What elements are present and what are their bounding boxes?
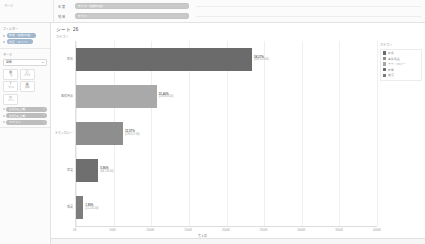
y-axis-tick: 家具 — [54, 41, 75, 78]
legend-swatch — [383, 68, 386, 71]
bar-row: 5.96%(66,726.00) — [76, 152, 377, 189]
mark-size-button[interactable]: ◰ サイズ — [20, 69, 35, 80]
legend-label: 家電 — [388, 68, 394, 72]
x-axis-tick-label: 500K — [110, 229, 116, 232]
marks-encoding-buttons: ▦ 色 ◰ サイズ T ラベル ▣ 詳細 — [3, 69, 47, 105]
x-axis-tick-label: 1500K — [184, 229, 192, 232]
x-axis: 0K500K1000K1500K2000K2500K3000K3500K4000… — [51, 226, 377, 238]
mark-color-label: 色 — [10, 75, 12, 77]
filter-chip-label[interactable]: 年度（複数の値） — [7, 33, 36, 38]
page-title: シート 26 — [56, 26, 425, 32]
filter-divider — [196, 5, 421, 7]
legend-item[interactable]: 事務用品 — [383, 57, 420, 61]
mark-type-select[interactable]: 自動 — [3, 59, 47, 67]
remove-icon[interactable]: × — [43, 121, 45, 124]
status-bar — [51, 238, 425, 244]
legend-title: カテゴリ — [380, 43, 422, 47]
y-axis-tick-label: 家電 — [67, 168, 73, 172]
x-axis-tick-label: 2000K — [222, 229, 230, 232]
y-axis-tick-label: 雑貨 — [67, 205, 73, 209]
pages-shelf-label: ページ — [4, 3, 50, 8]
mark-label-button[interactable]: T ラベル — [3, 81, 18, 92]
bar-label: 58.37%(640,913.00) — [254, 56, 269, 62]
remove-icon[interactable]: × — [43, 108, 45, 111]
bar[interactable]: 5.96%(66,726.00) — [76, 159, 98, 182]
legend-label: 雑貨 — [388, 73, 394, 77]
x-axis-tick-label: 0K — [73, 229, 76, 232]
mark-pill-label: カテゴリ — [9, 120, 21, 124]
plot-main: 家具事務用品テクノロジー家電雑貨 58.37%(640,913.00)21.46… — [51, 41, 377, 227]
bar-value-label: (21,241.00) — [85, 208, 98, 211]
legend-items: 家具事務用品テクノロジー家電雑貨 — [380, 49, 422, 82]
bar-value-label: (238,903.00) — [159, 96, 174, 99]
legend-item[interactable]: テクノロジー — [383, 62, 420, 66]
bar-value-label: (139,517.00) — [125, 133, 140, 136]
filter-card-item[interactable]: 年度（複数の値） — [3, 33, 47, 40]
legend-label: テクノロジー — [388, 62, 406, 66]
filter-name: 地 域 — [58, 14, 72, 19]
y-axis-labels: 家具事務用品テクノロジー家電雑貨 — [51, 41, 75, 227]
filter-card-item[interactable]: 地区（すべて） — [3, 39, 47, 46]
bar-value-label: (66,726.00) — [100, 170, 113, 173]
legend-item[interactable]: 家電 — [383, 68, 420, 72]
mark-pill-row[interactable]: カテゴリ× — [3, 120, 47, 125]
marks-panel-title: マーク — [3, 52, 47, 57]
remove-icon[interactable]: × — [43, 114, 45, 117]
bar[interactable]: 21.46%(238,903.00) — [76, 85, 157, 108]
y-axis-tick-label: 事務用品 — [61, 94, 73, 98]
legend-item[interactable]: 雑貨 — [383, 73, 420, 77]
bar[interactable]: 1.90%(21,241.00) — [76, 196, 83, 219]
legend-swatch — [383, 74, 386, 77]
x-axis-ticks: 0K500K1000K1500K2000K2500K3000K3500K4000… — [75, 226, 377, 234]
mark-pill[interactable]: 合計(売上高)× — [6, 113, 47, 118]
sidebar-spacer — [0, 128, 50, 244]
sidebar: フィルター 年度（複数の値） 地区（すべて） マーク 自動 — [0, 23, 51, 244]
y-axis-tick: テクノロジー — [54, 115, 75, 152]
mark-label-label: ラベル — [8, 87, 14, 89]
mark-pill-row[interactable]: 合計(売上高)× — [3, 107, 47, 112]
workspace: フィルター 年度（複数の値） 地区（すべて） マーク 自動 — [0, 23, 425, 244]
x-axis-tick-label: 3500K — [335, 229, 343, 232]
filter-row[interactable]: 年 度 すべて（複数の値） — [58, 2, 421, 10]
filter-value-pill[interactable]: すべて（複数の値） — [75, 3, 189, 9]
mark-pill-row[interactable]: 合計(売上高)× — [3, 113, 47, 118]
legend-label: 事務用品 — [388, 57, 400, 61]
filter-row[interactable]: 地 域 すべて — [58, 12, 421, 20]
y-axis-tick: 事務用品 — [54, 78, 75, 115]
chart-region: 家具事務用品テクノロジー家電雑貨 58.37%(640,913.00)21.46… — [51, 39, 425, 239]
mark-detail-label: 詳細 — [25, 87, 29, 89]
mark-detail-button[interactable]: ▣ 詳細 — [20, 81, 35, 92]
plot-area: 58.37%(640,913.00)21.46%(238,903.00)12.5… — [75, 41, 377, 227]
x-axis-tick-label: 2500K — [260, 229, 268, 232]
mark-size-label: サイズ — [24, 75, 30, 77]
drag-handle-icon — [3, 41, 5, 43]
legend-swatch — [383, 62, 386, 65]
bar-label: 5.96%(66,726.00) — [100, 167, 113, 173]
chevron-down-icon — [42, 62, 44, 63]
filters-panel-title: フィルター — [3, 26, 47, 31]
filters-panel: フィルター 年度（複数の値） 地区（すべて） — [0, 23, 50, 49]
bar[interactable]: 12.57%(139,517.00) — [76, 122, 123, 145]
legend-label: 家具 — [388, 51, 394, 55]
mark-pill-label: 合計(売上高) — [9, 114, 26, 118]
plot-column: 家具事務用品テクノロジー家電雑貨 58.37%(640,913.00)21.46… — [51, 39, 377, 239]
mark-pill[interactable]: 合計(売上高)× — [6, 107, 47, 112]
mark-tooltip-button[interactable]: ◎ ヒント — [3, 94, 18, 105]
legend-item[interactable]: 家具 — [383, 51, 420, 55]
x-axis-tick-label: 1000K — [147, 229, 155, 232]
mark-pill-label: 合計(売上高) — [9, 107, 26, 111]
legend: カテゴリ 家具事務用品テクノロジー家電雑貨 — [377, 39, 425, 239]
top-filter-bar: ページ 年 度 すべて（複数の値） 地 域 すべて — [0, 0, 425, 23]
sheet-header: シート 26 カテゴリ — [51, 23, 425, 39]
legend-swatch — [383, 51, 386, 54]
mark-color-button[interactable]: ▦ 色 — [3, 69, 18, 80]
filter-divider — [196, 15, 421, 17]
bar[interactable]: 58.37%(640,913.00) — [76, 48, 252, 71]
mark-pill[interactable]: カテゴリ× — [6, 120, 47, 125]
bar-row: 1.90%(21,241.00) — [76, 189, 377, 226]
field-icon — [3, 115, 5, 117]
y-axis-tick: 雑貨 — [54, 189, 75, 226]
filter-chip-label[interactable]: 地区（すべて） — [7, 39, 33, 44]
filter-value-pill[interactable]: すべて — [75, 13, 189, 19]
y-axis-tick-label: テクノロジー — [55, 131, 73, 135]
